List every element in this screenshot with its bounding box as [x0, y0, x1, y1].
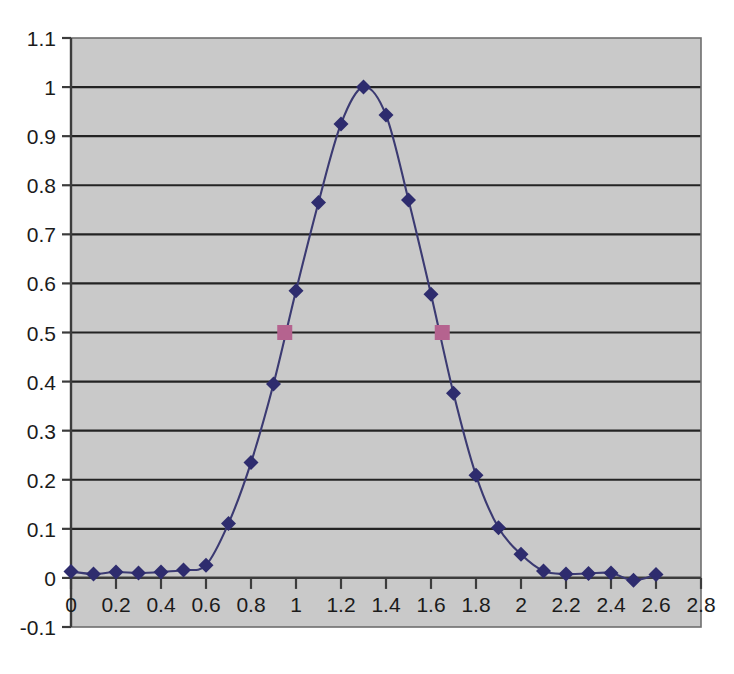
y-tick-label: 0.1 [27, 518, 56, 541]
y-tick-label: 0.3 [27, 420, 56, 443]
x-tick-label: 1.6 [416, 593, 445, 616]
half-max-marker [435, 325, 450, 340]
x-tick-label: 1.2 [326, 593, 355, 616]
y-tick-label: 0.4 [27, 371, 57, 394]
y-tick-label: 0.8 [27, 174, 56, 197]
x-tick-label: 1 [290, 593, 302, 616]
x-tick-label: 0.6 [191, 593, 220, 616]
x-tick-label: 1.4 [371, 593, 401, 616]
y-tick-label: 1 [44, 76, 56, 99]
y-tick-label: 0.7 [27, 223, 56, 246]
y-tick-label: 0.5 [27, 322, 56, 345]
x-tick-label: 2.6 [641, 593, 670, 616]
half-max-marker [277, 325, 292, 340]
chart-container: 1.110.90.80.70.60.50.40.30.20.10-0.1 00.… [0, 0, 734, 674]
y-tick-label: -0.1 [20, 616, 56, 639]
x-axis-tick-labels: 00.20.40.60.811.21.41.61.822.22.42.62.8 [65, 593, 715, 616]
x-tick-label: 2 [515, 593, 527, 616]
x-tick-label: 2.2 [551, 593, 580, 616]
x-tick-label: 0.2 [101, 593, 130, 616]
x-tick-label: 2.8 [686, 593, 715, 616]
y-tick-label: 0.9 [27, 125, 56, 148]
x-tick-label: 1.8 [461, 593, 490, 616]
y-tick-label: 0 [44, 567, 56, 590]
y-tick-label: 0.6 [27, 272, 56, 295]
y-tick-label: 0.2 [27, 469, 56, 492]
bell-curve-chart: 1.110.90.80.70.60.50.40.30.20.10-0.1 00.… [0, 0, 734, 674]
x-tick-label: 0.8 [236, 593, 265, 616]
x-tick-label: 2.4 [596, 593, 626, 616]
y-tick-label: 1.1 [27, 27, 56, 50]
x-tick-label: 0.4 [146, 593, 176, 616]
x-tick-label: 0 [65, 593, 77, 616]
